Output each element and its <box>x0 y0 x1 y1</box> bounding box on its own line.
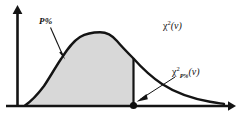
chi-square-critical-value-label: χ2P%(ν) <box>172 66 199 79</box>
chi-argument-nu: (ν) <box>171 20 182 31</box>
chi-exponent-critical: 2 <box>176 65 179 72</box>
critical-value-point-marker <box>130 102 137 109</box>
p-percent-area-label: P% <box>39 17 52 26</box>
chi-square-distribution-chart <box>0 0 242 120</box>
chi-argument-nu-critical: (ν) <box>188 66 199 77</box>
critical-label-arrowhead-icon <box>137 94 148 102</box>
x-axis-arrowhead-icon <box>228 101 236 111</box>
shaded-area-region <box>25 32 133 106</box>
y-axis-arrowhead-icon <box>13 5 23 14</box>
chi-square-curve-label: χ2(ν) <box>163 20 182 31</box>
chi-square-figure-container: P% χ2(ν) χ2P%(ν) <box>0 0 242 120</box>
